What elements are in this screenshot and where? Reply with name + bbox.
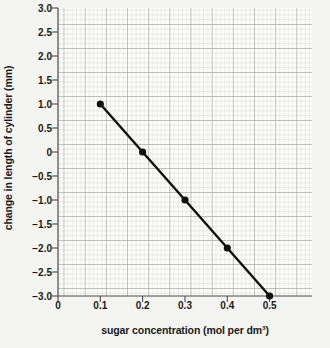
y-axis-ticks xyxy=(52,8,58,296)
x-tick-label: 0.4 xyxy=(220,300,234,311)
y-tick-label: 2.0 xyxy=(38,51,52,62)
data-point xyxy=(224,244,231,251)
y-tick-label: 0.5 xyxy=(38,123,52,134)
graph-figure: 3.0 2.5 2.0 1.5 1.0 0.5 0 −0.5 −1.0 −1.5… xyxy=(0,0,330,348)
y-tick-label: −2.0 xyxy=(32,243,52,254)
data-point xyxy=(97,100,104,107)
x-tick-label: 0.2 xyxy=(136,300,150,311)
x-tick-label: 0.5 xyxy=(263,300,277,311)
y-tick-label: 1.5 xyxy=(38,75,52,86)
x-tick-label: 0.3 xyxy=(178,300,192,311)
x-axis-tick-labels: 0 0.1 0.2 0.3 0.4 0.5 xyxy=(0,300,330,318)
y-tick-label: −1.0 xyxy=(32,195,52,206)
x-tick-label: 0.1 xyxy=(93,300,107,311)
y-axis-title: change in length of cylinder (mm) xyxy=(0,0,16,296)
x-axis-title: sugar concentration (mol per dm³) xyxy=(58,324,312,336)
data-point xyxy=(266,292,273,299)
y-tick-label: −2.5 xyxy=(32,267,52,278)
y-tick-label: 3.0 xyxy=(38,3,52,14)
y-tick-label: 0 xyxy=(46,147,52,158)
data-point xyxy=(139,148,146,155)
y-tick-label: 2.5 xyxy=(38,27,52,38)
grid xyxy=(58,8,312,296)
data-point xyxy=(181,196,188,203)
y-tick-label: −0.5 xyxy=(32,171,52,182)
y-tick-label: −1.5 xyxy=(32,219,52,230)
x-tick-label: 0 xyxy=(55,300,61,311)
y-tick-label: 1.0 xyxy=(38,99,52,110)
